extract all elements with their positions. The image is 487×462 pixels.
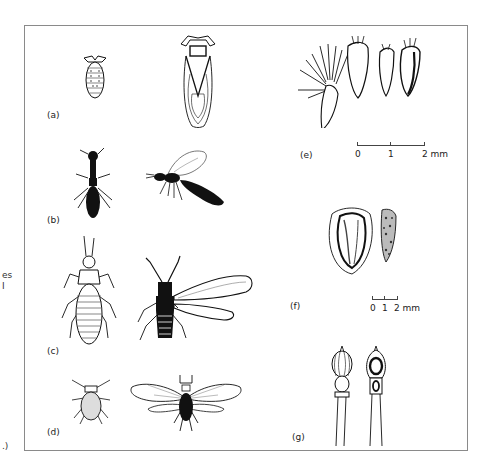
insect-larva-illustration [60, 234, 120, 348]
seed-illustration [318, 204, 398, 276]
panel-label-c: (c) [47, 346, 59, 356]
scale-bar-f: 0 1 2 mm [372, 296, 398, 316]
winged-wasp-illustration [146, 150, 226, 210]
scale-tick-2: 2 mm [422, 149, 448, 159]
winged-adult-insect-illustration [178, 34, 218, 130]
ant-like-insect-illustration [72, 148, 116, 222]
panel-label-f: (f) [290, 301, 300, 311]
scale-bar-e: 0 1 2 mm [357, 142, 425, 162]
panel-label-d: (d) [47, 427, 60, 437]
scale-tick-0: 0 [355, 149, 361, 159]
margin-text-fragment: .) [2, 441, 8, 451]
achenes-with-pappus-illustration [296, 34, 426, 128]
panel-label-e: (e) [300, 150, 313, 160]
scale-tick-2: 2 mm [394, 303, 420, 313]
margin-text-fragment: es [2, 270, 12, 280]
panel-label-g: (g) [292, 432, 305, 442]
wingless-aphid-illustration [68, 378, 114, 428]
margin-text-fragment: I [2, 281, 5, 291]
scale-tick-1: 1 [388, 149, 394, 159]
insect-nymph-illustration [80, 52, 110, 107]
panel-label-b: (b) [47, 215, 60, 225]
scale-tick-0: 0 [370, 303, 376, 313]
scale-tick-1: 1 [382, 303, 388, 313]
fruit-capsule-illustration [330, 346, 398, 446]
winged-adult-thrips-illustration [134, 252, 254, 346]
panel-label-a: (a) [47, 110, 60, 120]
winged-aphid-illustration [128, 375, 246, 435]
